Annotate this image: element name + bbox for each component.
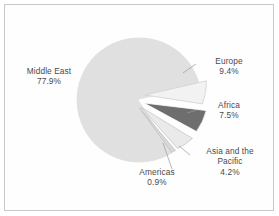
pie-label-middle-east-value: 77.9%: [12, 76, 86, 86]
pie-label-europe: Europe 9.4%: [199, 56, 259, 77]
pie-label-africa-name: Africa: [199, 100, 259, 110]
pie-label-asia-pacific-name-line1: Asia and the: [194, 146, 266, 156]
pie-label-americas-name: Americas: [122, 167, 192, 177]
pie-label-europe-value: 9.4%: [199, 66, 259, 76]
pie-label-americas-value: 0.9%: [122, 177, 192, 187]
leader-line-asia-pacific: [179, 146, 190, 155]
pie-label-africa-value: 7.5%: [199, 110, 259, 120]
pie-label-americas: Americas 0.9%: [122, 167, 192, 188]
pie-label-middle-east-name: Middle East: [12, 66, 86, 76]
pie-label-middle-east: Middle East 77.9%: [12, 66, 86, 87]
pie-label-asia-pacific: Asia and the Pacific 4.2%: [194, 146, 266, 177]
pie-chart-screenshot: Middle East 77.9% Europe 9.4% Africa 7.5…: [0, 0, 279, 216]
pie-label-asia-pacific-name-line2: Pacific: [194, 156, 266, 166]
pie-label-europe-name: Europe: [199, 56, 259, 66]
pie-label-asia-pacific-value: 4.2%: [194, 167, 266, 177]
pie-label-africa: Africa 7.5%: [199, 100, 259, 121]
